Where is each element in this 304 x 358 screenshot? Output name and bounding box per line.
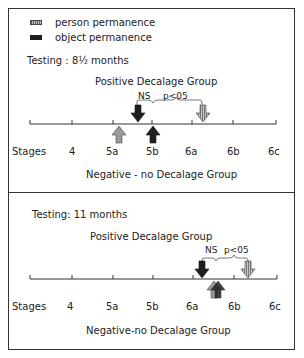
panel1-axis <box>30 120 276 124</box>
panel2-axis <box>30 275 277 279</box>
panel2-bracket <box>202 255 248 264</box>
panel2-person-positive-arrow <box>241 261 255 278</box>
panel1-person-negative-arrow <box>112 126 126 143</box>
panel1-bracket <box>137 97 202 106</box>
panel1-object-negative-arrow <box>146 126 160 143</box>
panel1-object-positive-arrow <box>131 105 145 122</box>
chart-graphics <box>0 0 304 358</box>
panel1-person-positive-arrow <box>196 105 210 122</box>
panel2-object-positive-arrow <box>195 261 209 278</box>
